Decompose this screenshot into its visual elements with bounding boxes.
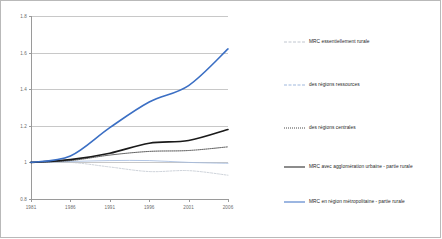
y-tick-label: 1.2 (20, 123, 27, 128)
x-tick-mark (110, 199, 111, 202)
y-tick-label: 1.8 (20, 14, 27, 19)
x-tick-mark (149, 199, 150, 202)
legend-label: des régions centrales (309, 126, 356, 131)
y-tick-label: 0.8 (20, 197, 27, 202)
legend-label: MRC avec agglomération urbaine - partie … (309, 165, 413, 170)
series-lines (31, 16, 228, 199)
legend-swatch-icon (284, 125, 305, 131)
legend-swatch-icon (284, 82, 305, 88)
x-tick-mark (189, 199, 190, 202)
x-tick-label: 2006 (223, 205, 234, 210)
legend-label: MRC essentiellement rurale (309, 40, 369, 45)
x-tick-label: 1991 (104, 205, 115, 210)
series-line (31, 162, 228, 175)
legend-item[interactable]: des régions ressources (284, 80, 360, 90)
x-tick-label: 1986 (65, 205, 76, 210)
legend-label: MRC en région métropolitaine - partie ru… (309, 200, 405, 205)
x-tick-label: 2001 (183, 205, 194, 210)
y-tick-label: 1.4 (20, 87, 27, 92)
x-tick-mark (31, 199, 32, 202)
legend-item[interactable]: MRC essentiellement rurale (284, 37, 369, 47)
x-tick-mark (228, 199, 229, 202)
y-tick-label: 1.6 (20, 50, 27, 55)
chart-frame: 0.811.21.41.61.8 19811986199119962001200… (0, 0, 441, 238)
legend-item[interactable]: MRC en région métropolitaine - partie ru… (284, 197, 405, 207)
x-tick-label: 1981 (26, 205, 37, 210)
legend-swatch-icon (284, 39, 305, 45)
legend-item[interactable]: des régions centrales (284, 123, 356, 133)
series-line (31, 49, 228, 162)
legend-swatch-icon (284, 164, 305, 170)
series-line (31, 129, 228, 162)
y-tick-label: 1 (24, 160, 27, 165)
legend-swatch-icon (284, 199, 305, 205)
legend-item[interactable]: MRC avec agglomération urbaine - partie … (284, 162, 413, 172)
x-axis-line (31, 199, 228, 200)
plot-area: 0.811.21.41.61.8 19811986199119962001200… (31, 16, 228, 199)
x-tick-mark (70, 199, 71, 202)
x-tick-label: 1996 (144, 205, 155, 210)
chart-legend: MRC essentiellement ruraledes régions re… (284, 17, 434, 199)
legend-label: des régions ressources (309, 83, 360, 88)
